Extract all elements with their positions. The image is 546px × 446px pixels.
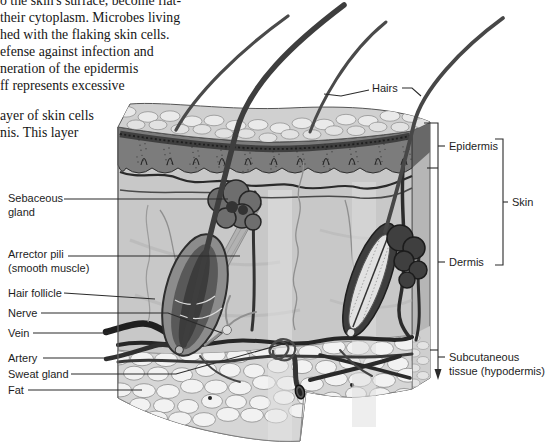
- label-fat: Fat: [8, 384, 24, 398]
- label-subcutaneous-tissue: Subcutaneous tissue (hypodermis): [449, 351, 545, 378]
- down-arrow-icon: [435, 369, 442, 380]
- label-line: Dermis: [449, 256, 484, 270]
- label-artery: Artery: [8, 352, 37, 366]
- label-line: Vein: [8, 327, 29, 341]
- label-hairs: Hairs: [372, 82, 398, 96]
- label-dermis: Dermis: [449, 256, 484, 270]
- label-line: Sebaceous: [8, 192, 63, 206]
- label-line: Skin: [512, 196, 533, 210]
- label-arrector-pili: Arrector pili (smooth muscle): [8, 248, 89, 275]
- label-line: Subcutaneous: [449, 351, 545, 365]
- label-line: (smooth muscle): [8, 262, 89, 276]
- label-line: Nerve: [8, 307, 37, 321]
- textbook-page: o the skin's surface, become flat- their…: [0, 0, 546, 446]
- cut-plane-stripe: [268, 190, 292, 440]
- label-line: Hairs: [372, 82, 398, 96]
- label-line: Artery: [8, 352, 37, 366]
- label-hair-follicle: Hair follicle: [8, 287, 62, 301]
- label-line: Arrector pili: [8, 248, 89, 262]
- label-line: tissue (hypodermis): [449, 365, 545, 379]
- layer-bracket: [424, 123, 508, 369]
- label-line: Sweat gland: [8, 368, 69, 382]
- label-line: Hair follicle: [8, 287, 62, 301]
- label-epidermis: Epidermis: [449, 140, 498, 154]
- label-sweat-gland: Sweat gland: [8, 368, 69, 382]
- skin-diagram: [0, 0, 546, 446]
- label-line: gland: [8, 206, 63, 220]
- label-line: Fat: [8, 384, 24, 398]
- label-line: Epidermis: [449, 140, 498, 154]
- label-skin: Skin: [512, 196, 533, 210]
- label-nerve: Nerve: [8, 307, 37, 321]
- label-sebaceous-gland: Sebaceous gland: [8, 192, 63, 219]
- label-vein: Vein: [8, 327, 29, 341]
